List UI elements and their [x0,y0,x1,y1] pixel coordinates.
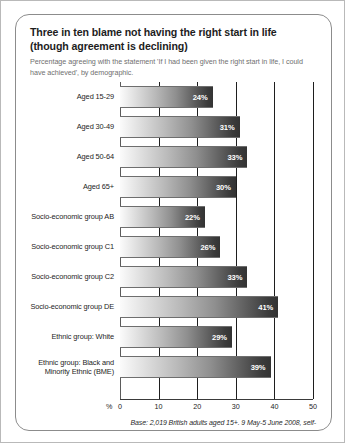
bar: 30% [120,176,236,198]
category-label: Aged 30-49 [18,112,114,142]
chart-row: Socio-economic group AB22% [16,202,332,232]
category-label: Aged 50-64 [18,142,114,172]
bar-value-label: 24% [193,87,208,107]
chart-row: Aged 15-2924% [16,82,332,112]
bar: 24% [120,86,213,108]
chart-row: Aged 30-4931% [16,112,332,142]
x-axis: % 01020304050 [16,399,332,415]
category-label: Socio-economic group C1 [18,232,114,262]
plot-area: Aged 15-2924%Aged 30-4931%Aged 50-6433%A… [16,70,332,431]
bar: 22% [120,206,205,228]
bar-value-label: 41% [258,297,273,317]
category-label: Aged 65+ [18,172,114,202]
x-tick-label-30: 30 [232,402,240,411]
chart-row: Aged 50-6433% [16,142,332,172]
chart-card: Three in ten blame not having the right … [15,14,332,431]
x-tick-label-40: 40 [270,402,278,411]
category-label: Ethnic group: White [18,322,114,352]
x-tick-label-20: 20 [193,402,201,411]
category-label: Socio-economic group AB [18,202,114,232]
bar-value-label: 33% [227,147,242,167]
bar: 33% [120,146,247,168]
bar: 41% [120,296,278,318]
x-axis-line [120,399,313,400]
chart-row: Ethnic group: Black and Minority Ethnic … [16,352,332,382]
chart-row: Socio-economic group DE41% [16,292,332,322]
chart-title: Three in ten blame not having the right … [30,26,318,53]
chart-row: Socio-economic group C233% [16,262,332,292]
category-label: Socio-economic group C2 [18,262,114,292]
bar: 31% [120,116,240,138]
bar-rows: Aged 15-2924%Aged 30-4931%Aged 50-6433%A… [16,82,332,399]
bar: 39% [120,356,271,378]
category-label: Ethnic group: Black and Minority Ethnic … [18,352,114,382]
x-tick-label-10: 10 [155,402,163,411]
bar-value-label: 30% [216,177,231,197]
x-axis-percent-symbol: % [106,402,112,411]
chart-row: Aged 65+30% [16,172,332,202]
bar: 33% [120,266,247,288]
bar-value-label: 31% [220,117,235,137]
bar-value-label: 22% [185,207,200,227]
x-tick-label-0: 0 [118,402,122,411]
category-label: Aged 15-29 [18,82,114,112]
bar-value-label: 33% [227,267,242,287]
page-background: Three in ten blame not having the right … [0,0,345,443]
bar-value-label: 39% [251,357,266,377]
x-tick-label-50: 50 [309,402,317,411]
category-label: Socio-economic group DE [18,292,114,322]
bar: 26% [120,236,220,258]
chart-row: Ethnic group: White29% [16,322,332,352]
bar-value-label: 26% [200,237,215,257]
chart-footnote: Base: 2,019 British adults aged 15+. 9 M… [126,418,316,431]
bar-value-label: 29% [212,327,227,347]
bar: 29% [120,326,232,348]
chart-row: Socio-economic group C126% [16,232,332,262]
